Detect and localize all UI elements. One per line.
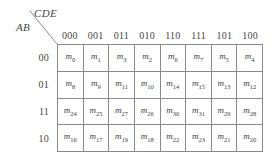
kmap-cell[interactable]: m24 (58, 99, 84, 126)
kmap-cell[interactable]: m4 (237, 45, 263, 72)
minterm-index: 23 (198, 136, 205, 143)
minterm-index: 13 (224, 83, 231, 90)
kmap-cell[interactable]: m6 (161, 45, 187, 72)
minterm-label: m27 (115, 106, 128, 117)
kmap-cell[interactable]: m14 (161, 72, 187, 99)
kmap-cell[interactable]: m1 (84, 45, 110, 72)
minterm-label: m28 (243, 106, 256, 117)
kmap-cell[interactable]: m30 (161, 99, 187, 126)
row-header: 11 (20, 98, 53, 125)
kmap-cell[interactable]: m31 (186, 99, 212, 126)
minterm-index: 4 (251, 56, 254, 63)
minterm-label: m31 (192, 106, 205, 117)
kmap-corner-header: CDE AB (0, 0, 60, 46)
minterm-index: 27 (122, 110, 129, 117)
kmap-row: m0m1m3m2m6m7m5m4 (58, 45, 263, 72)
kmap-cell[interactable]: m22 (161, 125, 187, 152)
minterm-label: m7 (194, 52, 204, 63)
kmap-cell[interactable]: m28 (237, 99, 263, 126)
minterm-label: m19 (115, 132, 128, 143)
kmap-cell[interactable]: m3 (109, 45, 135, 72)
kmap-cell[interactable]: m17 (84, 125, 110, 152)
column-header: 010 (134, 28, 160, 44)
minterm-label: m18 (141, 132, 154, 143)
column-header: 011 (109, 28, 135, 44)
kmap-cell-grid: m0m1m3m2m6m7m5m4m8m9m11m10m14m15m13m12m2… (57, 44, 263, 152)
minterm-index: 24 (70, 110, 77, 117)
column-header-row: 000001011010110111101100 (57, 28, 263, 44)
minterm-index: 2 (149, 56, 152, 63)
kmap-cell[interactable]: m7 (186, 45, 212, 72)
kmap-cell[interactable]: m5 (212, 45, 238, 72)
kmap-cell[interactable]: m23 (186, 125, 212, 152)
row-header: 00 (20, 44, 53, 71)
minterm-index: 1 (98, 56, 101, 63)
kmap-cell[interactable]: m19 (109, 125, 135, 152)
kmap-cell[interactable]: m25 (84, 99, 110, 126)
minterm-label: m12 (243, 79, 256, 90)
kmap-cell[interactable]: m0 (58, 45, 84, 72)
row-header: 10 (20, 125, 53, 152)
kmap-cell[interactable]: m20 (237, 125, 263, 152)
kmap-cell[interactable]: m15 (186, 72, 212, 99)
kmap-cell[interactable]: m21 (212, 125, 238, 152)
minterm-index: 6 (174, 56, 177, 63)
kmap-cell[interactable]: m10 (135, 72, 161, 99)
minterm-index: 31 (198, 110, 205, 117)
minterm-index: 3 (123, 56, 126, 63)
kmap-row: m8m9m11m10m14m15m13m12 (58, 72, 263, 99)
row-variables-label: AB (16, 21, 30, 33)
row-header-column: 00011110 (20, 44, 53, 152)
minterm-label: m17 (89, 132, 102, 143)
minterm-label: m15 (192, 79, 205, 90)
minterm-label: m22 (166, 132, 179, 143)
minterm-index: 11 (122, 83, 128, 90)
column-header: 001 (83, 28, 109, 44)
kmap-cell[interactable]: m9 (84, 72, 110, 99)
column-header: 111 (186, 28, 212, 44)
kmap-cell[interactable]: m27 (109, 99, 135, 126)
column-header: 110 (160, 28, 186, 44)
minterm-index: 10 (147, 83, 154, 90)
minterm-label: m25 (89, 106, 102, 117)
column-header: 100 (237, 28, 263, 44)
minterm-index: 7 (200, 56, 203, 63)
kmap-cell[interactable]: m16 (58, 125, 84, 152)
kmap-cell[interactable]: m8 (58, 72, 84, 99)
row-header: 01 (20, 71, 53, 98)
column-header: 101 (212, 28, 238, 44)
minterm-index: 28 (250, 110, 257, 117)
minterm-label: m5 (219, 52, 229, 63)
minterm-index: 5 (226, 56, 229, 63)
minterm-label: m30 (166, 106, 179, 117)
minterm-index: 19 (122, 136, 129, 143)
column-variables-label: CDE (34, 7, 57, 19)
kmap-cell[interactable]: m2 (135, 45, 161, 72)
karnaugh-map-diagram: CDE AB 000001011010110111101100 00011110… (0, 0, 275, 157)
kmap-cell[interactable]: m26 (135, 99, 161, 126)
kmap-cell[interactable]: m29 (212, 99, 238, 126)
minterm-label: m24 (64, 106, 77, 117)
minterm-label: m21 (218, 132, 231, 143)
kmap-row: m24m25m27m26m30m31m29m28 (58, 99, 263, 126)
minterm-label: m13 (218, 79, 231, 90)
kmap-cell[interactable]: m18 (135, 125, 161, 152)
minterm-index: 21 (224, 136, 231, 143)
kmap-cell[interactable]: m11 (109, 72, 135, 99)
minterm-index: 8 (72, 83, 75, 90)
minterm-label: m2 (142, 52, 152, 63)
minterm-label: m29 (218, 106, 231, 117)
minterm-index: 17 (96, 136, 103, 143)
minterm-index: 0 (72, 56, 75, 63)
minterm-label: m20 (243, 132, 256, 143)
minterm-label: m16 (64, 132, 77, 143)
minterm-label: m23 (192, 132, 205, 143)
kmap-cell[interactable]: m12 (237, 72, 263, 99)
minterm-index: 20 (250, 136, 257, 143)
minterm-index: 25 (96, 110, 103, 117)
minterm-label: m14 (166, 79, 179, 90)
minterm-index: 22 (173, 136, 180, 143)
minterm-label: m6 (168, 52, 178, 63)
minterm-label: m0 (65, 52, 75, 63)
kmap-cell[interactable]: m13 (212, 72, 238, 99)
